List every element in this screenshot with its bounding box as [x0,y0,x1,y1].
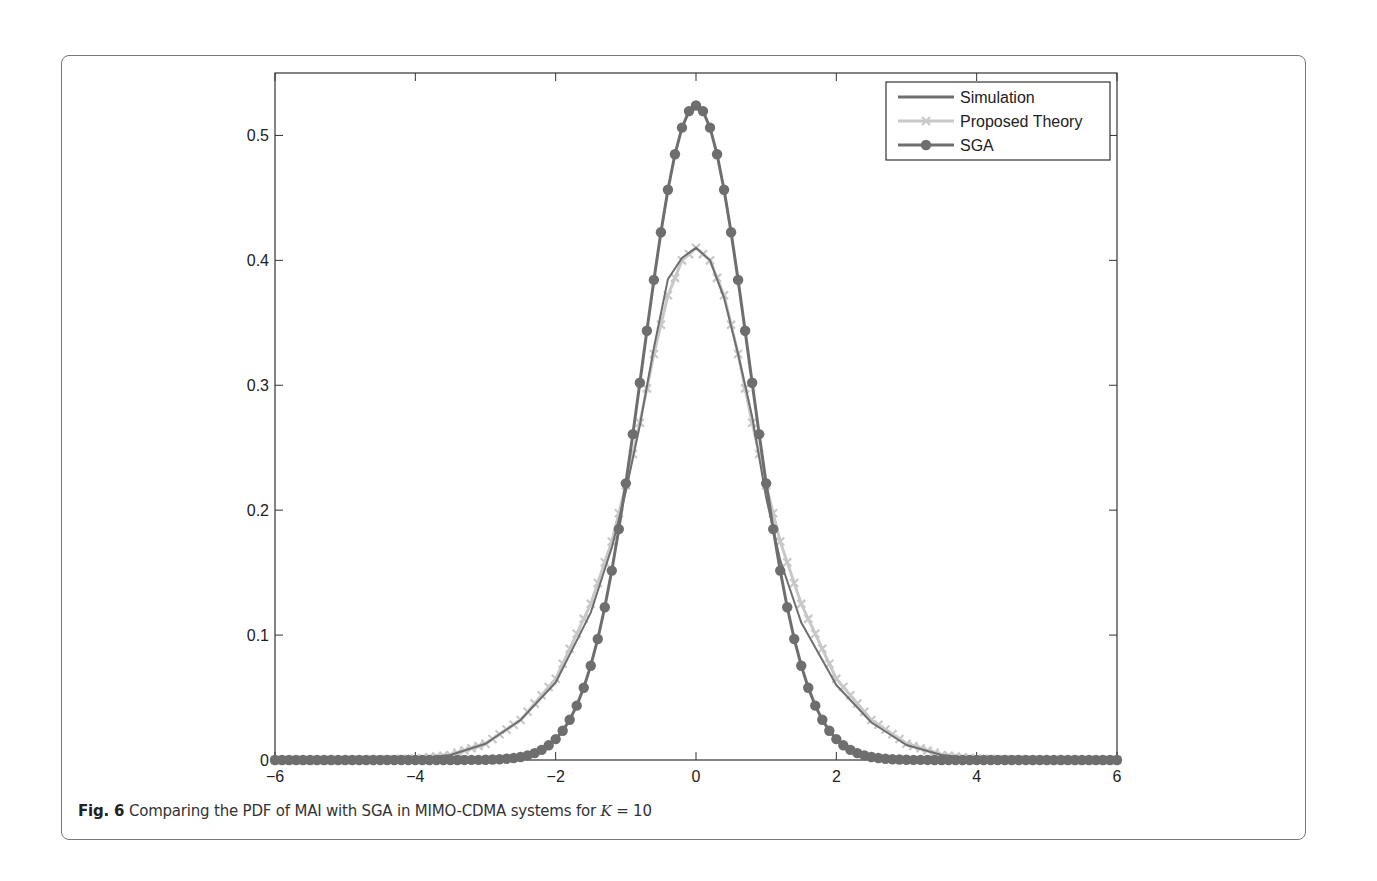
x-tick-label: −6 [266,768,284,785]
sga-marker [1112,755,1122,765]
sga-line [275,105,1117,760]
x-tick-label: −2 [547,768,565,785]
sga-marker [614,524,624,534]
sga-marker [817,715,827,725]
sga-marker [712,149,722,159]
legend-label-1: Simulation [960,89,1035,106]
y-tick-label: 0.1 [247,627,269,644]
sga-marker [586,661,596,671]
sga-marker [705,122,715,132]
sga-marker [593,634,603,644]
sga-marker [656,227,666,237]
y-tick-label: 0.2 [247,502,269,519]
pdf-line-chart: −6−4−2024600.10.20.30.40.5SimulationProp… [0,0,1377,881]
caption-label: Fig. 6 [78,802,124,820]
y-tick-label: 0 [260,752,269,769]
caption-equation: = 10 [612,802,652,820]
axes-box [275,73,1117,760]
sga-marker [768,524,778,534]
sga-marker [740,326,750,336]
proposed-theory-line [275,248,1117,760]
sga-marker [572,700,582,710]
x-tick-label: 0 [692,768,701,785]
sga-marker [789,634,799,644]
legend-circle-marker [921,140,931,150]
sga-marker [677,122,687,132]
sga-marker [754,429,764,439]
sga-marker [649,275,659,285]
sga-marker [803,683,813,693]
sga-marker [579,683,589,693]
sga-marker [670,149,680,159]
sga-marker [796,661,806,671]
sga-marker [600,602,610,612]
x-tick-label: −4 [406,768,424,785]
sga-marker [719,185,729,195]
sga-marker [628,429,638,439]
sga-marker [810,700,820,710]
sga-marker [733,275,743,285]
x-tick-label: 4 [972,768,981,785]
sga-marker [642,326,652,336]
figure-caption: Fig. 6 Comparing the PDF of MAI with SGA… [78,802,652,820]
sga-marker [635,378,645,388]
sga-marker [557,726,567,736]
sga-marker [607,565,617,575]
simulation-line [275,248,1117,760]
y-tick-label: 0.4 [247,252,269,269]
sga-marker [782,602,792,612]
sga-marker [761,478,771,488]
legend-label-3: SGA [960,137,994,154]
sga-marker [698,106,708,116]
sga-marker [621,478,631,488]
sga-marker [565,715,575,725]
caption-variable: K [601,802,612,820]
x-tick-label: 6 [1113,768,1122,785]
y-tick-label: 0.3 [247,377,269,394]
caption-text: Comparing the PDF of MAI with SGA in MIM… [129,802,601,820]
sga-marker [726,227,736,237]
sga-marker [550,734,560,744]
sga-marker [747,378,757,388]
sga-marker [824,726,834,736]
sga-marker [663,185,673,195]
legend-label-2: Proposed Theory [960,113,1082,130]
y-tick-label: 0.5 [247,127,269,144]
x-tick-label: 2 [832,768,841,785]
sga-marker [775,565,785,575]
